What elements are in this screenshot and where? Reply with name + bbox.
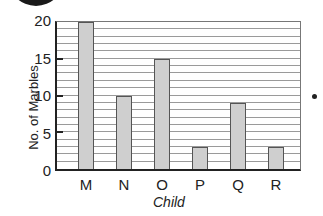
bar-r bbox=[268, 147, 284, 169]
bullet-dot bbox=[312, 94, 317, 99]
bar-q bbox=[230, 103, 246, 169]
x-tick-label: Q bbox=[228, 176, 248, 193]
x-tick-label: R bbox=[266, 176, 286, 193]
y-tick-label: 10 bbox=[34, 88, 51, 103]
y-tick-label: 0 bbox=[43, 163, 51, 178]
x-tick-label: N bbox=[114, 176, 134, 193]
y-tick bbox=[55, 131, 63, 133]
bar-p bbox=[192, 147, 208, 169]
y-tick-label: 20 bbox=[34, 13, 51, 28]
bar-n bbox=[116, 96, 132, 170]
x-tick-label: P bbox=[190, 176, 210, 193]
plot-area bbox=[55, 21, 301, 171]
y-tick bbox=[55, 58, 63, 60]
y-tick-label: 5 bbox=[43, 126, 51, 141]
bar-m bbox=[78, 22, 94, 169]
decorative-dark-shape bbox=[8, 0, 64, 6]
x-tick-label: O bbox=[152, 176, 172, 193]
y-tick bbox=[55, 95, 63, 97]
bar-o bbox=[154, 59, 170, 169]
x-tick-label: M bbox=[76, 176, 96, 193]
y-tick-label: 15 bbox=[34, 51, 51, 66]
x-axis-title: Child bbox=[153, 194, 185, 210]
y-axis-title: No. of Marbles bbox=[26, 63, 41, 153]
